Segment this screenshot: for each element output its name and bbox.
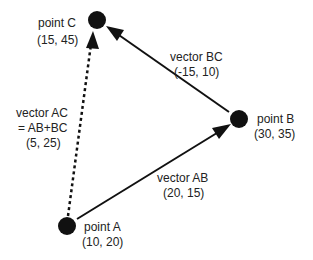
vector-ab-label: vector AB bbox=[157, 171, 208, 185]
vector-bc-value: (-15, 10) bbox=[174, 65, 219, 79]
vector-ab-arrowhead-icon bbox=[212, 124, 231, 139]
vector-ac-formula: = AB+BC bbox=[18, 121, 68, 135]
vector-bc-label: vector BC bbox=[170, 50, 223, 64]
vector-ac bbox=[68, 31, 99, 216]
vector-bc-arrowhead-icon bbox=[106, 26, 124, 41]
point-a-coords: (10, 20) bbox=[82, 235, 123, 249]
vector-ac-value: (5, 25) bbox=[26, 136, 61, 150]
point-c-dot bbox=[88, 11, 106, 29]
vector-ac-line bbox=[68, 44, 91, 216]
vector-diagram: point C (15, 45) vector BC (-15, 10) poi… bbox=[0, 0, 313, 260]
point-a-dot bbox=[58, 217, 76, 235]
point-c-label: point C bbox=[38, 16, 76, 30]
point-b-label: point B bbox=[257, 112, 294, 126]
vector-ab-value: (20, 15) bbox=[163, 186, 204, 200]
point-b-coords: (30, 35) bbox=[254, 127, 295, 141]
point-a-label: point A bbox=[84, 220, 121, 234]
vector-ac-arrowhead-icon bbox=[86, 31, 99, 49]
point-b-dot bbox=[230, 110, 248, 128]
point-c-coords: (15, 45) bbox=[37, 33, 78, 47]
vector-ac-label: vector AC bbox=[16, 106, 68, 120]
